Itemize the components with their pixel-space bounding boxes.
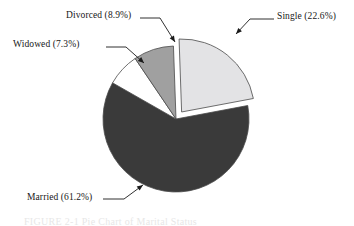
leader-line-divorced [140, 18, 175, 42]
pie-slice-single [179, 39, 253, 112]
leader-line-married [103, 185, 143, 199]
leader-arrow-divorced-icon [170, 36, 175, 42]
pie-label-single: Single (22.6%) [277, 12, 336, 22]
leader-arrow-married-icon [137, 185, 143, 191]
pie-label-divorced: Divorced (8.9%) [66, 11, 131, 21]
figure-container: Single (22.6%) Divorced (8.9%) Widowed (… [0, 0, 354, 226]
pie-label-widowed: Widowed (7.3%) [13, 40, 79, 50]
leader-line-single [236, 19, 274, 34]
pie-slices-group [103, 39, 253, 192]
pie-label-married: Married (61.2%) [27, 193, 92, 203]
figure-caption: FIGURE 2-1 Pie Chart of Marital Status [24, 216, 197, 226]
